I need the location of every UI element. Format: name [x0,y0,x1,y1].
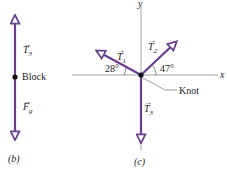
block-dot [12,74,17,79]
vector-arrow-glyph: → [144,98,152,107]
knot-dot [138,72,143,77]
block-label: Block [22,71,46,82]
vector-arrow-glyph: → [23,40,31,49]
y-axis-label: y [137,0,143,9]
angle-label-t1: 28° [105,63,119,74]
panel-c: x y Knot T1 → T2 → T3 → 28° 47° (c) [72,0,225,168]
free-body-diagrams: T3 → Block Fg → (b) x y Knot T1 → T2 → T… [0,0,227,176]
angle-arc-28 [124,67,126,75]
vector-arrow-glyph: → [23,97,31,106]
angle-label-t2: 47° [160,63,174,74]
panel-b: T3 → Block Fg → (b) [8,16,46,165]
x-axis-label: x [219,69,225,80]
knot-leader-line [143,78,165,90]
caption-c: (c) [134,156,146,168]
caption-b: (b) [8,153,20,165]
vector-arrow-glyph: → [117,46,125,55]
knot-label: Knot [179,85,199,96]
vector-arrow-glyph: → [148,36,156,45]
